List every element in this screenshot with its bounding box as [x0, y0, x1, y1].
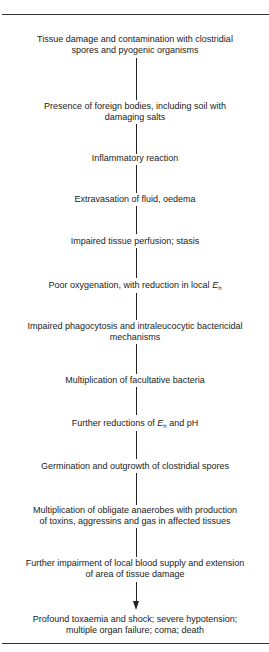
step-11-line-1: Multiplication of obligate anaerobes wit…: [33, 505, 237, 515]
connector-line: [136, 58, 137, 100]
step-10-line-1: Germination and outgrowth of clostridial…: [41, 461, 229, 471]
bottom-rule: [2, 643, 269, 644]
step-7-line-2: mechanisms: [110, 332, 161, 342]
step-4-extravasation: Extravasation of fluid, oedema: [20, 194, 250, 205]
step-9-text-after: and pH: [167, 418, 199, 428]
step-5-impaired-perfusion: Impaired tissue perfusion; stasis: [20, 236, 250, 247]
step-6-text: Poor oxygenation, with reduction in loca…: [49, 280, 213, 290]
step-9-text: Further reductions of: [72, 418, 158, 428]
step-11-line-2: of toxins, aggressins and gas in affecte…: [40, 516, 231, 526]
connector-line: [136, 206, 137, 234]
step-13-line-1: Profound toxaemia and shock; severe hypo…: [33, 614, 238, 624]
connector-line: [136, 431, 137, 459]
arrow-down-icon: [133, 601, 139, 610]
connector-line: [136, 528, 137, 557]
step-12-line-1: Further impairment of local blood supply…: [26, 558, 245, 568]
step-1-line-1: Tissue damage and contamination with clo…: [37, 34, 233, 44]
connector-line: [136, 248, 137, 278]
step-9-further-reductions: Further reductions of Eh and pH: [20, 418, 250, 432]
step-1-tissue-damage: Tissue damage and contamination with clo…: [20, 34, 250, 56]
connector-line: [136, 124, 137, 154]
step-2-foreign-bodies: Presence of foreign bodies, including so…: [20, 101, 250, 123]
step-8-line-1: Multiplication of facultative bacteria: [65, 375, 205, 385]
step-13-line-2: multiple organ failure; coma; death: [66, 625, 204, 635]
step-2-line-2: damaging salts: [105, 112, 166, 122]
step-8-facultative-bacteria: Multiplication of facultative bacteria: [20, 375, 250, 386]
connector-line: [136, 582, 137, 603]
top-rule: [2, 14, 269, 15]
step-2-line-1: Presence of foreign bodies, including so…: [44, 101, 226, 111]
connector-line: [136, 344, 137, 374]
step-4-line-1: Extravasation of fluid, oedema: [74, 194, 195, 204]
connector-line: [136, 473, 137, 505]
step-12-line-2: of area of tissue damage: [85, 569, 184, 579]
step-6-poor-oxygenation: Poor oxygenation, with reduction in loca…: [20, 280, 250, 294]
step-6-subscript: h: [218, 285, 221, 291]
step-12-further-impairment: Further impairment of local blood supply…: [14, 558, 256, 580]
step-10-germination: Germination and outgrowth of clostridial…: [20, 461, 250, 472]
step-5-line-1: Impaired tissue perfusion; stasis: [71, 236, 200, 246]
step-11-obligate-anaerobes: Multiplication of obligate anaerobes wit…: [14, 505, 256, 527]
connector-line: [136, 293, 137, 320]
step-13-profound-toxaemia: Profound toxaemia and shock; severe hypo…: [14, 614, 256, 636]
connector-line: [136, 165, 137, 193]
step-1-line-2: spores and pyogenic organisms: [71, 45, 198, 55]
step-3-inflammatory-reaction: Inflammatory reaction: [20, 153, 250, 164]
step-7-impaired-phagocytosis: Impaired phagocytosis and intraleucocyti…: [14, 321, 256, 343]
step-3-line-1: Inflammatory reaction: [92, 153, 179, 163]
connector-line: [136, 387, 137, 415]
step-7-line-1: Impaired phagocytosis and intraleucocyti…: [27, 321, 242, 331]
